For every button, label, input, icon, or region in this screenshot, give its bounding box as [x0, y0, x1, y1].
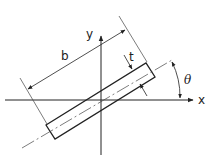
x-axis-label: x — [198, 93, 205, 107]
dimension-t-arrow-bottom — [140, 84, 147, 96]
thickness-label: t — [129, 50, 134, 64]
theta-arc — [172, 62, 180, 98]
extension-line-left — [20, 78, 47, 124]
cross-section-diagram: y x b t θ — [0, 0, 210, 158]
center-line — [22, 60, 172, 148]
y-axis-label: y — [86, 27, 93, 41]
angle-label: θ — [184, 73, 192, 87]
dimension-b-line — [28, 30, 125, 89]
length-label: b — [61, 49, 69, 63]
diagram-canvas: y x b t θ — [0, 0, 210, 158]
